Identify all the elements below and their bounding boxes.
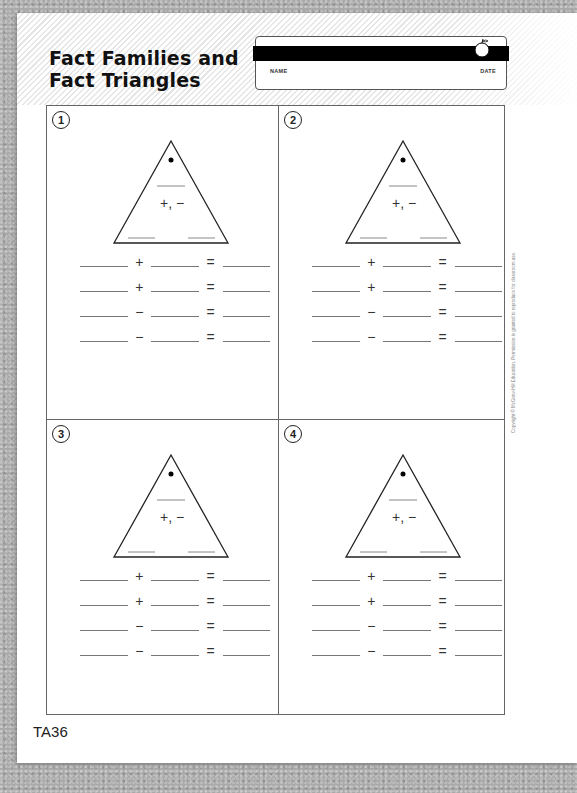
equation-row: −= [80,296,270,321]
triangle-operators: +, − [160,509,184,525]
answer-blank[interactable] [80,605,128,606]
operator-sign: − [128,644,152,658]
answer-blank[interactable] [223,316,271,317]
answer-blank[interactable] [383,291,431,292]
equation-row: += [312,271,502,296]
answer-blank[interactable] [383,266,431,267]
equation-list: +=+=−=−= [312,246,502,346]
operator-sign: + [360,594,384,608]
equation-row: −= [312,610,502,635]
worksheet-page: Fact Families and Fact Triangles NAME DA… [17,13,577,763]
equation-row: += [80,246,270,271]
answer-blank[interactable] [151,316,199,317]
answer-blank[interactable] [383,316,431,317]
answer-blank[interactable] [312,605,360,606]
answer-blank[interactable] [312,630,360,631]
answer-blank[interactable] [223,580,271,581]
answer-blank[interactable] [223,341,271,342]
answer-blank[interactable] [455,341,503,342]
equation-list: +=+=−=−= [80,560,270,660]
answer-blank[interactable] [312,341,360,342]
equals-sign: = [199,619,223,633]
answer-blank[interactable] [455,266,503,267]
answer-blank[interactable] [80,580,128,581]
equals-sign: = [199,305,223,319]
answer-blank[interactable] [80,341,128,342]
answer-blank[interactable] [151,605,199,606]
problem-number: 1 [52,111,70,129]
answer-blank[interactable] [151,341,199,342]
date-label: DATE [480,68,496,74]
equation-row: −= [312,296,502,321]
operator-sign: − [128,619,152,633]
answer-blank[interactable] [80,316,128,317]
dot-icon [401,158,406,163]
copyright-notice: Copyright © McGraw-Hill Education. Permi… [511,183,516,433]
equation-row: += [312,560,502,585]
answer-blank[interactable] [312,291,360,292]
answer-blank[interactable] [223,630,271,631]
answer-blank[interactable] [80,266,128,267]
dot-icon [169,158,174,163]
title-line-1: Fact Families and [49,47,239,69]
operator-sign: − [128,330,152,344]
operator-sign: + [128,280,152,294]
equals-sign: = [199,594,223,608]
answer-blank[interactable] [383,580,431,581]
answer-blank[interactable] [383,655,431,656]
problem-number: 2 [284,111,302,129]
answer-blank[interactable] [312,580,360,581]
answer-blank[interactable] [383,630,431,631]
answer-blank[interactable] [455,605,503,606]
problem-number: 3 [52,425,70,443]
answer-blank[interactable] [151,580,199,581]
equals-sign: = [431,305,455,319]
equation-row: −= [312,321,502,346]
operator-sign: + [360,569,384,583]
problem-cell-3: 3 +, − +=+=−=−= [47,420,276,731]
equation-row: += [312,246,502,271]
answer-blank[interactable] [455,291,503,292]
triangle-operators: +, − [392,509,416,525]
fact-triangle [111,136,231,246]
answer-blank[interactable] [455,655,503,656]
answer-blank[interactable] [223,291,271,292]
problem-cell-1: 1 +, − +=+=−=−= [47,106,276,417]
answer-blank[interactable] [383,341,431,342]
answer-blank[interactable] [383,605,431,606]
equals-sign: = [431,619,455,633]
equals-sign: = [431,569,455,583]
fact-triangle [111,450,231,560]
fact-triangle [343,450,463,560]
answer-blank[interactable] [455,580,503,581]
title-line-2: Fact Triangles [49,69,239,91]
triangle-operators: +, − [392,195,416,211]
name-label: NAME [270,68,287,74]
answer-blank[interactable] [151,630,199,631]
equals-sign: = [199,280,223,294]
answer-blank[interactable] [151,266,199,267]
answer-blank[interactable] [223,266,271,267]
operator-sign: + [128,594,152,608]
operator-sign: − [128,305,152,319]
answer-blank[interactable] [455,316,503,317]
equals-sign: = [431,594,455,608]
answer-blank[interactable] [151,655,199,656]
answer-blank[interactable] [223,655,271,656]
answer-blank[interactable] [151,291,199,292]
answer-blank[interactable] [80,655,128,656]
answer-blank[interactable] [312,655,360,656]
fact-triangle [343,136,463,246]
answer-blank[interactable] [80,630,128,631]
equation-list: +=+=−=−= [80,246,270,346]
operator-sign: + [360,255,384,269]
answer-blank[interactable] [312,266,360,267]
equation-list: +=+=−=−= [312,560,502,660]
answer-blank[interactable] [80,291,128,292]
worksheet-title: Fact Families and Fact Triangles [49,47,239,91]
operator-sign: − [360,305,384,319]
answer-blank[interactable] [312,316,360,317]
answer-blank[interactable] [223,605,271,606]
operator-sign: − [360,619,384,633]
answer-blank[interactable] [455,630,503,631]
